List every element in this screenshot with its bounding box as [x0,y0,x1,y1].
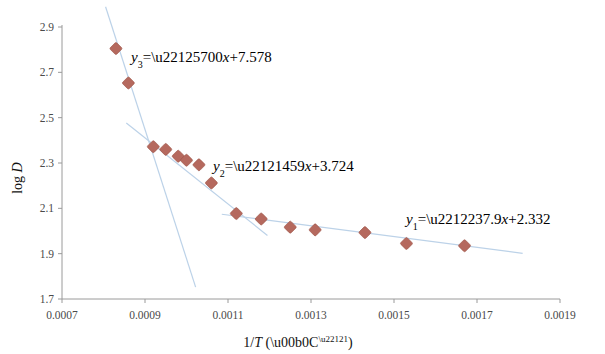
eq-y1-body: =\u2212237.9 [418,211,502,227]
eq-y2-var: y [211,158,220,174]
data-point [192,158,205,171]
data-point [122,76,135,89]
y-tick-label: 2.3 [40,157,55,169]
y-axis-ticks: 1.71.92.12.32.52.72.9 [40,21,62,305]
y-tick-label: 2.9 [40,21,55,33]
x-tick-label: 0.0019 [544,309,576,321]
data-point [159,143,172,156]
y-tick-label: 1.7 [40,293,55,305]
eq-y1-tail: +2.332 [508,211,550,227]
trendline-y2 [126,123,267,235]
y-tick-label: 1.9 [40,248,55,260]
x-axis-ticks: 0.00070.00090.00110.00130.00150.00170.00… [46,299,576,321]
eq-y3-tail: +7.578 [229,49,271,65]
equation-y3: y3=\u22125700x+7.578 [129,49,272,70]
eq-y1-var: y [404,211,413,227]
x-tick-label: 0.0015 [378,309,410,321]
y-tick-label: 2.1 [40,202,55,214]
y-tick-label: 2.7 [40,66,55,78]
y-tick-label: 2.5 [40,112,55,124]
x-tick-label: 0.0011 [212,309,243,321]
eq-y2-tail: +3.724 [311,158,354,174]
equation-y2: y2=\u22121459x+3.724 [211,158,354,179]
data-point [458,239,471,252]
x-tick-label: 0.0009 [129,309,161,321]
x-tick-label: 0.0017 [461,309,493,321]
x-tick-label: 0.0007 [46,309,78,321]
data-point [358,226,371,239]
equation-y1: y1=\u2212237.9x+2.332 [404,211,550,232]
eq-y3-body: =\u22125700 [143,49,223,65]
data-point [230,207,243,220]
chart-container: 1.71.92.12.32.52.72.9 0.00070.00090.0011… [0,0,605,354]
eq-y3-var: y [129,49,138,65]
x-axis: 0.00070.00090.00110.00130.00150.00170.00… [46,299,576,321]
data-point [255,212,268,225]
y-axis: 1.71.92.12.32.52.72.9 [40,21,62,305]
y-axis-title: log D [10,162,25,194]
x-tick-label: 0.0013 [295,309,327,321]
eq-y2-body: =\u22121459 [225,158,305,174]
scatter-plot: 1.71.92.12.32.52.72.9 0.00070.00090.0011… [0,0,605,354]
x-axis-title: 1/T (\u00b0C\u22121) [243,334,353,351]
